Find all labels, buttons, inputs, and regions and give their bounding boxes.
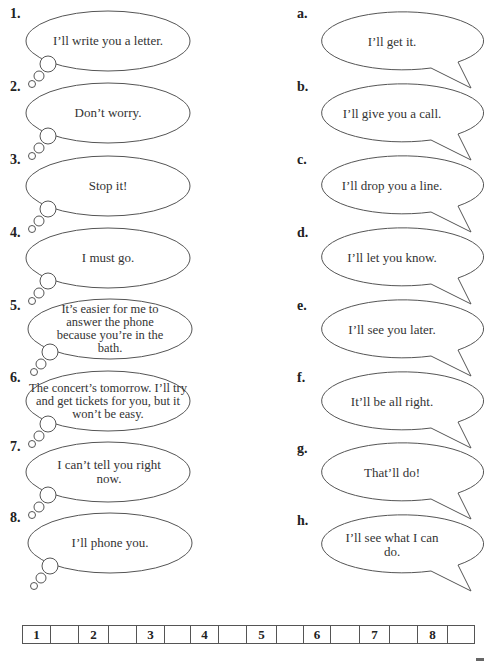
bubble-text: I’ll see what I can do.	[345, 517, 439, 573]
thought-bubble: I’ll write you a letter.	[24, 10, 194, 90]
bubble-text: That’ll do!	[315, 445, 469, 501]
item-number: 2.	[10, 79, 21, 95]
thought-bubble: The concert’s tomorrow. I’ll try and get…	[24, 370, 194, 450]
item-letter: a.	[297, 6, 308, 22]
item-letter: e.	[297, 298, 307, 314]
answer-input-cell[interactable]	[165, 626, 191, 644]
answer-number-cell: 6	[304, 626, 331, 644]
answer-input-cell[interactable]	[109, 626, 137, 644]
answer-input-cell[interactable]	[448, 626, 475, 644]
answer-input-cell[interactable]	[390, 626, 418, 644]
speech-bubble: I’ll drop you a line.	[311, 156, 486, 236]
bubble-text: I’ll let you know.	[315, 230, 469, 286]
bubble-text: I can’t tell you right now.	[54, 444, 164, 500]
item-letter: c.	[297, 152, 307, 168]
answer-number-cell: 3	[137, 626, 165, 644]
answer-number-cell: 1	[23, 626, 51, 644]
thought-bubble: Don’t worry.	[24, 82, 194, 162]
bubble-text: I’ll drop you a line.	[315, 158, 469, 214]
item-letter: f.	[297, 370, 305, 386]
speech-bubble: That’ll do!	[311, 443, 486, 523]
answer-number-cell: 2	[79, 626, 109, 644]
item-number: 1.	[10, 6, 21, 22]
item-number: 5.	[10, 298, 21, 314]
bubble-text: I must go.	[30, 230, 186, 286]
answer-number-cell: 4	[191, 626, 219, 644]
speech-bubble: I’ll let you know.	[311, 228, 486, 308]
speech-bubble: I’ll see what I can do.	[311, 515, 486, 595]
bubble-text: I’ll give you a call.	[315, 86, 469, 142]
thought-bubble: Stop it!	[24, 155, 194, 235]
item-letter: g.	[297, 441, 308, 457]
thought-bubble: I’ll phone you.	[26, 512, 196, 592]
bubble-text: Don’t worry.	[30, 85, 186, 141]
answer-input-cell[interactable]	[219, 626, 247, 644]
answer-number-cell: 5	[247, 626, 277, 644]
item-number: 6.	[10, 370, 21, 386]
item-number: 4.	[10, 225, 21, 241]
speech-bubble: I’ll see you later.	[311, 300, 486, 380]
bubble-text: I’ll phone you.	[32, 515, 188, 571]
answer-input-cell[interactable]	[51, 626, 79, 644]
bubble-text: I’ll get it.	[315, 14, 469, 70]
thought-bubble: It’s easier for me to answer the phone b…	[26, 298, 196, 378]
item-number: 8.	[10, 510, 21, 526]
bubble-text: I’ll see you later.	[315, 302, 469, 358]
thought-bubble: I can’t tell you right now.	[24, 441, 194, 521]
item-number: 3.	[10, 152, 21, 168]
answer-input-cell[interactable]	[277, 626, 304, 644]
bubble-text: It’s easier for me to answer the phone b…	[48, 300, 172, 358]
item-number: 7.	[10, 439, 21, 455]
speech-bubble: I’ll get it.	[311, 12, 486, 92]
bubble-text: The concert’s tomorrow. I’ll try and get…	[26, 372, 190, 430]
thought-bubble: I must go.	[24, 227, 194, 307]
bubble-text: It’ll be all right.	[315, 374, 469, 430]
answer-input-cell[interactable]	[331, 626, 360, 644]
bubble-text: I’ll write you a letter.	[30, 13, 186, 69]
item-letter: b.	[297, 79, 308, 95]
item-letter: h.	[297, 513, 308, 529]
answer-grid: 1 2 3 4 5 6 7 8	[22, 625, 475, 644]
answer-number-cell: 7	[360, 626, 390, 644]
speech-bubble: It’ll be all right.	[311, 372, 486, 452]
answer-number-cell: 8	[418, 626, 448, 644]
bubble-text: Stop it!	[30, 158, 186, 214]
item-letter: d.	[297, 225, 308, 241]
speech-bubble: I’ll give you a call.	[311, 84, 486, 164]
